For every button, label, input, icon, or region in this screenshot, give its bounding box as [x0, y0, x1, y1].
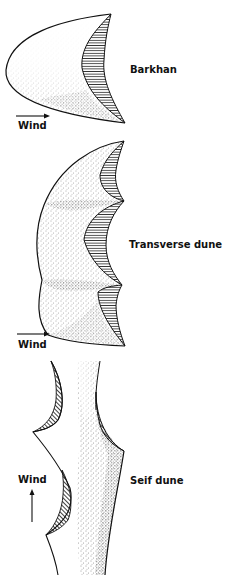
seif-wind-arrow [30, 489, 35, 522]
transverse-dune-shape [37, 141, 125, 346]
barkhan-wind-label: Wind [18, 120, 47, 132]
transverse-wind-label: Wind [18, 339, 47, 351]
seif-dune-label: Seif dune [130, 475, 183, 487]
dune-diagram [0, 0, 225, 588]
barkhan-dune-shape [6, 14, 125, 123]
barkhan-label: Barkhan [130, 64, 177, 76]
seif-wind-label: Wind [18, 474, 47, 486]
transverse-wind-arrow [17, 332, 50, 337]
barkhan-wind-arrow [16, 114, 50, 119]
transverse-dune-label: Transverse dune [129, 239, 222, 251]
seif-dune-shape [33, 361, 124, 575]
